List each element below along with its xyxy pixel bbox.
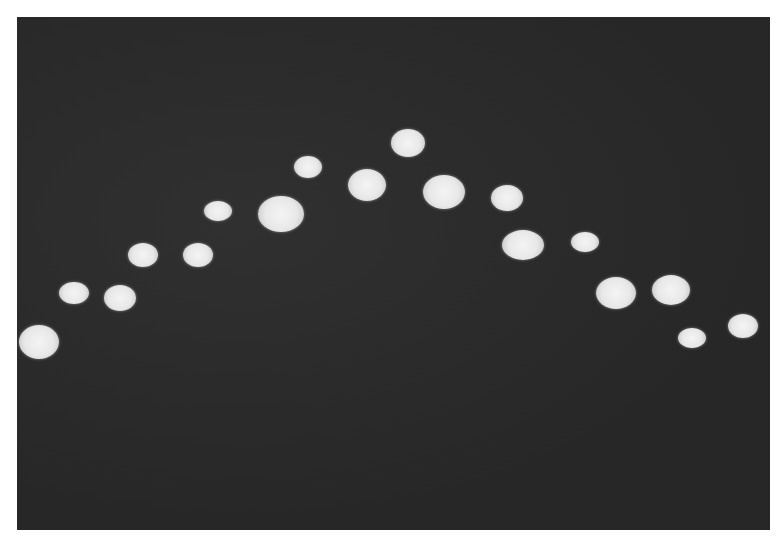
light-spot (596, 277, 636, 309)
light-spot (728, 314, 758, 338)
light-spot (128, 243, 158, 267)
light-spot (294, 156, 322, 178)
light-spot (204, 201, 232, 221)
light-spot (183, 243, 213, 267)
light-spot (348, 169, 386, 201)
light-spot (59, 282, 89, 304)
light-spot (258, 196, 304, 232)
light-spot (19, 325, 59, 359)
light-spot (502, 230, 544, 260)
light-spot (571, 232, 599, 252)
light-spot (678, 328, 706, 348)
light-spot (491, 185, 523, 211)
light-spot (104, 285, 136, 311)
light-spot (652, 275, 690, 305)
photograph (17, 17, 770, 530)
light-spot (391, 129, 425, 157)
light-spot (423, 175, 465, 209)
